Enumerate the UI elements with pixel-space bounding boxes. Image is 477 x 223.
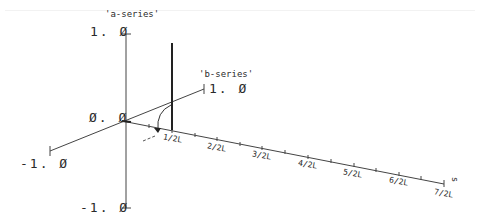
rotation-arc-icon	[158, 105, 171, 130]
b-axis-max-label: 1. Ø	[209, 82, 248, 95]
b-axis-label: 'b-series'	[199, 70, 253, 79]
a-axis-min-label: -1. Ø	[80, 201, 129, 214]
origin-label: Ø. Ø	[89, 111, 128, 124]
dashed-lead-line	[143, 136, 155, 141]
z-axis-label: s	[450, 177, 459, 182]
wave-diagram-canvas	[0, 0, 477, 223]
a-axis-max-label: 1. Ø	[90, 25, 129, 38]
z-axis-line	[122, 121, 444, 184]
b-axis-min-label: -1. Ø	[20, 157, 69, 170]
a-axis-label: 'a-series'	[105, 10, 159, 19]
arrowhead-icon	[154, 128, 161, 133]
